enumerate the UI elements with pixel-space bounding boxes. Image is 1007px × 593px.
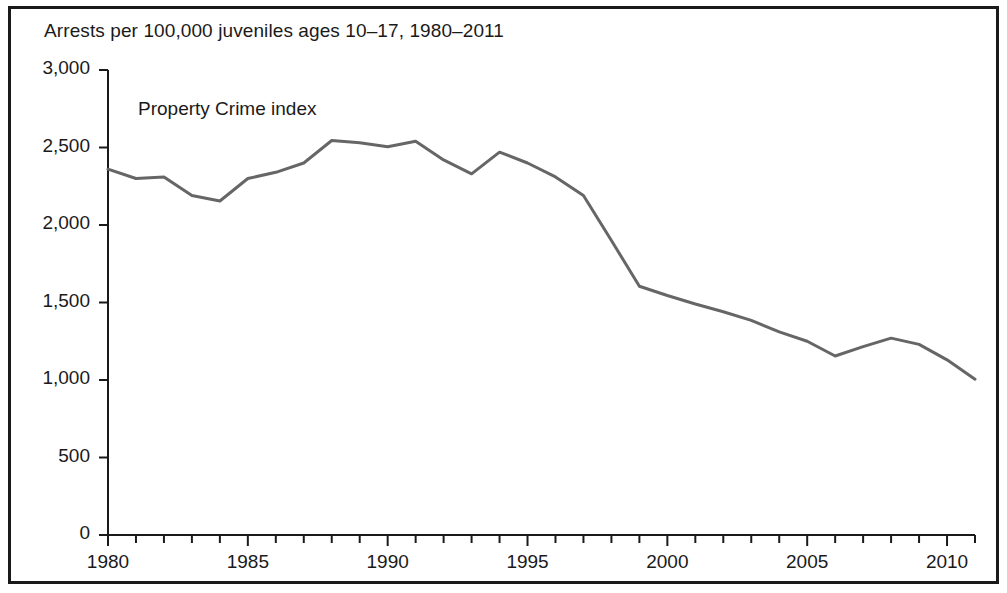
- x-tick-label: 1985: [208, 551, 288, 573]
- figure-container: Arrests per 100,000 juveniles ages 10–17…: [0, 0, 1007, 593]
- x-tick-label: 1995: [488, 551, 568, 573]
- y-tick-label: 3,000: [4, 57, 90, 79]
- x-tick-label: 2005: [767, 551, 847, 573]
- x-tick-label: 1980: [68, 551, 148, 573]
- x-tick-label: 2010: [907, 551, 987, 573]
- series-line-property-crime-index: [108, 141, 975, 380]
- x-tick-label: 2000: [627, 551, 707, 573]
- axis-group: [108, 70, 975, 535]
- x-tick-label: 1990: [348, 551, 428, 573]
- y-tick-label: 1,500: [4, 290, 90, 312]
- y-tick-label: 1,000: [4, 367, 90, 389]
- chart-plot-area: [0, 0, 1007, 593]
- data-series-group: [108, 141, 975, 380]
- y-tick-label: 2,000: [4, 212, 90, 234]
- y-tick-label: 0: [4, 522, 90, 544]
- y-tick-label: 500: [4, 445, 90, 467]
- tick-marks: [99, 70, 975, 546]
- y-tick-label: 2,500: [4, 135, 90, 157]
